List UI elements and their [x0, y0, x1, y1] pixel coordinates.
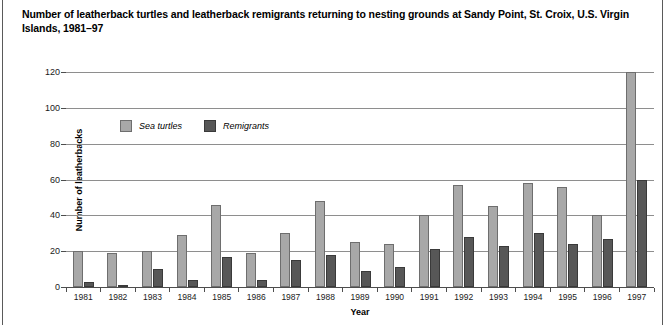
bar-groups — [66, 72, 654, 287]
bar-sea-turtles — [246, 253, 256, 287]
bar-remigrants — [395, 267, 405, 287]
x-axis-label: Year — [66, 307, 654, 317]
x-tick-mark — [169, 288, 170, 292]
x-tick-mark — [204, 288, 205, 292]
bar-sea-turtles — [177, 235, 187, 287]
y-tick-label: 20 — [30, 246, 60, 256]
x-tick-mark — [273, 288, 274, 292]
bar-remigrants — [637, 180, 647, 288]
y-tick-label: 80 — [30, 139, 60, 149]
x-tick-label: 1988 — [308, 288, 343, 304]
x-tick-label: 1981 — [66, 288, 101, 304]
bar-remigrants — [291, 260, 301, 287]
x-tick-mark — [238, 288, 239, 292]
x-tick-mark — [66, 288, 67, 292]
bar-group — [239, 72, 274, 287]
x-tick-mark — [481, 288, 482, 292]
x-tick-mark — [446, 288, 447, 292]
bar-group — [135, 72, 170, 287]
bar-group — [308, 72, 343, 287]
bar-group — [516, 72, 551, 287]
figure-right-rule — [662, 0, 663, 325]
bar-group — [101, 72, 136, 287]
bar-group — [550, 72, 585, 287]
y-tick-label: 40 — [30, 210, 60, 220]
bar-remigrants — [326, 255, 336, 287]
bar-group — [412, 72, 447, 287]
bar-remigrants — [257, 280, 267, 287]
x-tick-label: 1990 — [377, 288, 412, 304]
figure-left-rule — [2, 0, 3, 325]
bar-remigrants — [568, 244, 578, 287]
x-tick-mark — [654, 288, 655, 292]
bar-sea-turtles — [107, 253, 117, 287]
x-tick-mark — [584, 288, 585, 292]
x-tick-mark — [550, 288, 551, 292]
x-tick-label: 1987 — [274, 288, 309, 304]
y-tick-label: 0 — [30, 282, 60, 292]
x-tick-mark — [342, 288, 343, 292]
bar-sea-turtles — [592, 215, 602, 287]
bar-group — [170, 72, 205, 287]
bar-group — [274, 72, 309, 287]
legend-swatch-remigrants — [204, 120, 216, 132]
bar-group — [620, 72, 655, 287]
bar-remigrants — [118, 285, 128, 287]
y-tick-label: 100 — [30, 103, 60, 113]
bar-sea-turtles — [557, 187, 567, 287]
bar-remigrants — [361, 271, 371, 287]
x-tick-label: 1989 — [343, 288, 378, 304]
x-tick-mark — [135, 288, 136, 292]
legend-item-sea-turtles: Sea turtles — [120, 120, 182, 132]
bar-group — [343, 72, 378, 287]
bar-group — [447, 72, 482, 287]
x-tick-mark — [411, 288, 412, 292]
x-tick-label: 1986 — [239, 288, 274, 304]
bar-group — [585, 72, 620, 287]
x-tick-mark — [377, 288, 378, 292]
bar-remigrants — [534, 233, 544, 287]
legend-swatch-sea-turtles — [120, 120, 132, 132]
x-tick-label: 1992 — [447, 288, 482, 304]
x-tick-label: 1982 — [101, 288, 136, 304]
bar-sea-turtles — [523, 183, 533, 287]
bar-group — [204, 72, 239, 287]
y-axis-tick-labels: 020406080100120 — [28, 72, 60, 287]
bar-sea-turtles — [488, 206, 498, 287]
bar-remigrants — [153, 269, 163, 287]
bar-remigrants — [430, 249, 440, 287]
x-tick-mark — [515, 288, 516, 292]
bar-sea-turtles — [419, 215, 429, 287]
chart-legend: Sea turtles Remigrants — [120, 120, 269, 132]
plot-area — [66, 72, 654, 288]
bar-sea-turtles — [384, 244, 394, 287]
bar-sea-turtles — [453, 185, 463, 287]
x-tick-label: 1993 — [481, 288, 516, 304]
x-tick-label: 1994 — [516, 288, 551, 304]
chart-figure: Number of leatherback turtles and leathe… — [0, 0, 666, 325]
y-tick-label: 120 — [30, 67, 60, 77]
x-tick-label: 1991 — [412, 288, 447, 304]
bar-sea-turtles — [211, 205, 221, 287]
bar-sea-turtles — [142, 251, 152, 287]
x-tick-label: 1995 — [550, 288, 585, 304]
x-tick-mark — [308, 288, 309, 292]
bar-group — [377, 72, 412, 287]
x-tick-mark — [100, 288, 101, 292]
bar-sea-turtles — [350, 242, 360, 287]
bar-sea-turtles — [280, 233, 290, 287]
bar-remigrants — [188, 280, 198, 287]
legend-label-sea-turtles: Sea turtles — [139, 121, 182, 131]
bar-remigrants — [464, 237, 474, 287]
y-tick-label: 60 — [30, 175, 60, 185]
bar-remigrants — [603, 239, 613, 287]
x-tick-label: 1997 — [620, 288, 655, 304]
x-tick-label: 1984 — [170, 288, 205, 304]
legend-item-remigrants: Remigrants — [204, 120, 269, 132]
x-tick-mark — [619, 288, 620, 292]
bar-sea-turtles — [315, 201, 325, 287]
x-tick-label: 1985 — [204, 288, 239, 304]
chart-title: Number of leatherback turtles and leathe… — [22, 7, 650, 35]
bar-sea-turtles — [626, 72, 636, 287]
x-axis-tick-labels: 1981198219831984198519861987198819891990… — [66, 288, 654, 304]
